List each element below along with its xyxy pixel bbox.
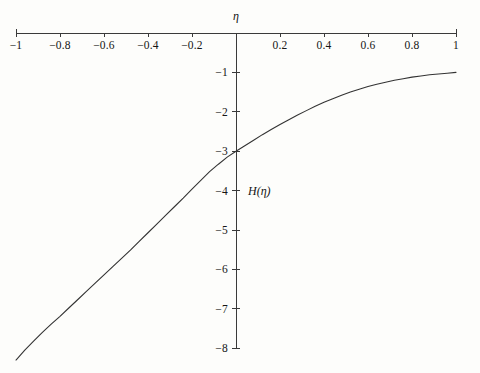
- axes-group: [16, 29, 456, 348]
- y-axis-title: H(η): [248, 183, 271, 198]
- x-tick-label: 0.6: [361, 39, 376, 51]
- x-tick-label: 0.4: [317, 39, 332, 51]
- x-tick-label: −0.2: [181, 39, 203, 51]
- y-tick-label: −7: [206, 303, 228, 315]
- y-tick-label: −2: [206, 106, 228, 118]
- y-tick-label: −8: [206, 342, 228, 354]
- y-tick-label: −6: [206, 263, 228, 275]
- x-tick-label: 1: [453, 39, 459, 51]
- x-tick-label: 0.8: [405, 39, 420, 51]
- x-tick-label: −0.6: [93, 39, 115, 51]
- figure-container: −1−0.8−0.6−0.4−0.20.20.40.60.81−1−2−3−4−…: [0, 0, 480, 373]
- x-tick-label: −0.4: [137, 39, 159, 51]
- x-axis-title: η: [233, 9, 239, 24]
- x-tick-label: 0.2: [273, 39, 288, 51]
- plot-canvas: [0, 0, 480, 373]
- y-tick-label: −3: [206, 145, 228, 157]
- x-tick-label: −1: [10, 39, 23, 51]
- x-tick-label: −0.8: [49, 39, 71, 51]
- y-tick-label: −1: [206, 66, 228, 78]
- y-tick-label: −5: [206, 224, 228, 236]
- y-tick-label: −4: [206, 185, 228, 197]
